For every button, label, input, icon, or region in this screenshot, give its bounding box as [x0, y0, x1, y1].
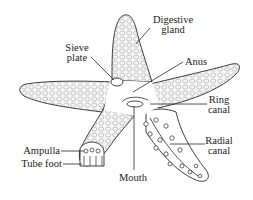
label-digestive-gland: Digestive gland	[151, 15, 195, 35]
label-mouth: Mouth	[116, 173, 150, 183]
top-arm	[112, 15, 152, 82]
starfish-diagram: Digestive gland Sieve plate Anus Ring ca…	[0, 0, 253, 200]
label-ampulla: Ampulla	[20, 146, 60, 156]
label-tube-foot: Tube foot	[14, 159, 62, 169]
label-ring-canal: Ring canal	[207, 95, 231, 115]
left-arm	[20, 81, 114, 112]
label-sieve-plate: Sieve plate	[62, 43, 92, 63]
label-anus: Anus	[185, 57, 207, 67]
label-radial-canal: Radial canal	[203, 136, 235, 156]
central-disk	[104, 80, 160, 116]
cross-section	[80, 142, 104, 166]
mouth-shape	[127, 101, 143, 107]
